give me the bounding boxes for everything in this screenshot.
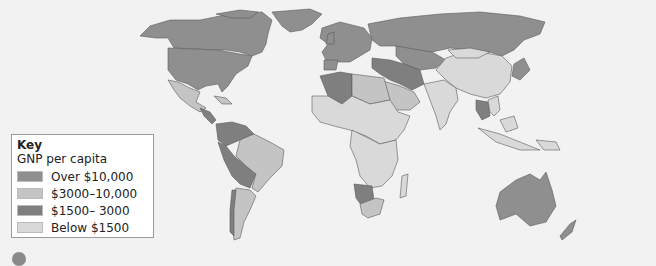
legend-swatch <box>17 188 43 199</box>
region-india <box>424 80 458 130</box>
legend-label: $1500– 3000 <box>51 204 130 218</box>
map-legend: Key GNP per capita Over $10,000 $3000–10… <box>11 134 154 238</box>
region-caribbean <box>214 96 232 104</box>
legend-label: $3000–10,000 <box>51 187 137 201</box>
legend-item-1500-3000: $1500– 3000 <box>17 202 148 219</box>
region-australia <box>496 172 556 226</box>
legend-swatch <box>17 222 43 233</box>
legend-swatch <box>17 205 43 216</box>
region-madagascar <box>400 174 408 198</box>
legend-label: Over $10,000 <box>51 170 133 184</box>
region-borneo-philippines <box>500 116 518 132</box>
region-japan-korea <box>512 58 530 80</box>
bullet-circle-icon <box>12 252 26 266</box>
legend-item-3000-10000: $3000–10,000 <box>17 185 148 202</box>
region-iberia <box>324 60 338 70</box>
region-new-guinea <box>536 140 560 150</box>
region-central-america <box>200 108 216 124</box>
legend-item-over-10000: Over $10,000 <box>17 168 148 185</box>
region-thailand <box>476 100 490 120</box>
legend-swatch <box>17 171 43 182</box>
legend-item-below-1500: Below $1500 <box>17 219 148 236</box>
region-greenland <box>272 9 322 32</box>
region-new-zealand <box>560 220 576 240</box>
legend-subtitle: GNP per capita <box>17 152 148 166</box>
legend-title: Key <box>17 138 148 152</box>
legend-label: Below $1500 <box>51 221 129 235</box>
